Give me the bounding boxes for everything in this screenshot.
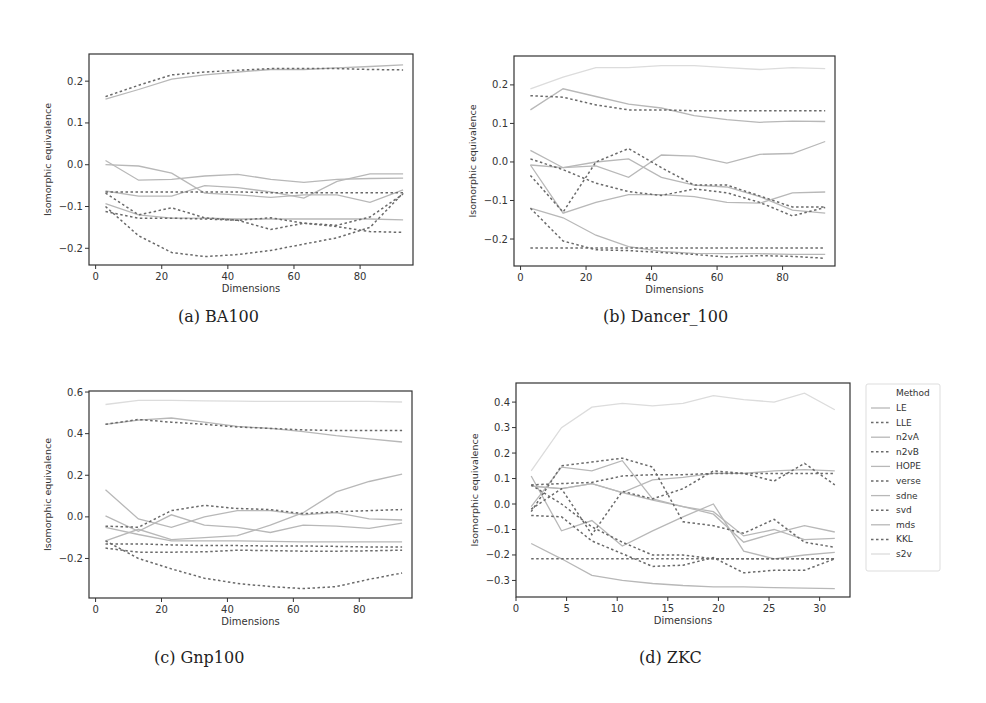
x-tick-label: 5 [563, 603, 569, 614]
line-d2 [530, 149, 825, 213]
y-tick-label: −0.2 [484, 234, 508, 245]
x-tick-label: 0 [92, 271, 98, 282]
x-tick-label: 25 [763, 603, 776, 614]
line-d4 [531, 516, 835, 573]
chart-canvas: 020406080−0.2−0.10.00.10.2DimensionsIsom… [0, 0, 986, 703]
x-tick-label: 80 [776, 272, 789, 283]
x-tick-label: 80 [353, 604, 366, 615]
legend-label-LLE: LLE [896, 418, 912, 428]
y-tick-label: 0.4 [494, 397, 510, 408]
legend-label-LE: LE [896, 403, 907, 413]
line-d3 [106, 212, 404, 233]
line-d3 [530, 208, 825, 258]
legend: MethodLELLEn2vAn2vBHOPEversesdnesvdmdsKK… [866, 384, 940, 571]
y-axis-label: Isomorphic equivalence [469, 433, 480, 546]
legend-label-s2v: s2v [896, 549, 912, 559]
x-axis-label: Dimensions [654, 615, 712, 626]
subplot-a: 020406080−0.2−0.10.00.10.2DimensionsIsom… [42, 54, 413, 294]
y-axis-label: Isomorphic equivalence [467, 104, 478, 217]
legend-label-svd: svd [896, 505, 912, 515]
line-d2 [531, 473, 835, 485]
y-tick-label: −0.2 [59, 553, 83, 564]
y-tick-label: −0.1 [486, 524, 510, 535]
line-s3 [106, 174, 404, 198]
x-tick-label: 20 [580, 272, 593, 283]
x-tick-label: 80 [354, 271, 367, 282]
y-tick-label: 0.3 [494, 422, 510, 433]
x-tick-label: 30 [813, 603, 826, 614]
y-tick-label: 0.1 [494, 473, 510, 484]
x-tick-label: 0 [517, 272, 523, 283]
subplot-d: 051015202530−0.3−0.2−0.10.00.10.20.30.4D… [469, 383, 850, 626]
y-tick-label: 0.6 [67, 387, 83, 398]
caption-a: (a) BA100 [178, 307, 259, 326]
x-tick-label: 40 [221, 271, 234, 282]
series-lines [106, 400, 403, 588]
line-s2 [530, 142, 825, 178]
line-s3 [106, 474, 403, 541]
y-tick-label: −0.1 [484, 195, 508, 206]
line-d3 [531, 463, 835, 534]
caption-d: (d) ZKC [639, 648, 702, 667]
y-tick-label: 0.2 [492, 79, 508, 90]
line-d-top [530, 96, 825, 111]
x-tick-label: 40 [645, 272, 658, 283]
axes-frame [89, 54, 413, 265]
x-tick-label: 10 [611, 603, 624, 614]
line-d4 [106, 193, 404, 257]
y-axis-label: Isomorphic equivalence [42, 103, 53, 216]
x-tick-label: 20 [155, 271, 168, 282]
line-d1 [106, 192, 404, 193]
x-tick-label: 60 [287, 604, 300, 615]
y-tick-label: 0.1 [67, 117, 83, 128]
subplot-c: 020406080−0.20.00.20.40.6DimensionsIsomo… [42, 387, 412, 627]
x-axis-label: Dimensions [222, 283, 280, 294]
line-s5 [531, 544, 835, 589]
line-d-top [106, 420, 403, 431]
y-tick-label: 0.0 [67, 159, 83, 170]
x-tick-label: 60 [711, 272, 724, 283]
x-tick-label: 15 [661, 603, 674, 614]
y-tick-label: −0.3 [486, 575, 510, 586]
y-tick-label: 0.1 [492, 118, 508, 129]
x-tick-label: 0 [513, 603, 519, 614]
caption-c: (c) Gnp100 [154, 648, 244, 667]
legend-label-KKL: KKL [896, 534, 913, 544]
x-tick-label: 60 [288, 271, 301, 282]
figure: 020406080−0.2−0.10.00.10.2DimensionsIsom… [0, 0, 986, 703]
series-lines [530, 66, 825, 259]
x-tick-label: 0 [92, 604, 98, 615]
line-d2 [106, 193, 404, 229]
y-tick-label: −0.2 [59, 243, 83, 254]
legend-label-sdne: sdne [896, 491, 918, 501]
line-d4 [106, 541, 403, 589]
legend-label-n2vA: n2vA [896, 432, 920, 442]
line-s2 [531, 476, 835, 559]
line-d3 [106, 548, 403, 552]
line-s2v [531, 393, 835, 471]
y-tick-label: 0.0 [494, 499, 510, 510]
caption-b: (b) Dancer_100 [603, 307, 728, 326]
y-tick-label: 0.2 [67, 76, 83, 87]
y-tick-label: −0.2 [486, 549, 510, 560]
line-s-top [106, 418, 403, 442]
bleed-through-text [560, 130, 567, 155]
x-axis-label: Dimensions [645, 284, 703, 295]
y-tick-label: 0.0 [492, 156, 508, 167]
y-tick-label: 0.4 [67, 428, 83, 439]
y-tick-label: −0.1 [59, 201, 83, 212]
series-lines [106, 65, 404, 257]
x-tick-label: 40 [221, 604, 234, 615]
y-axis-label: Isomorphic equivalence [42, 438, 53, 551]
line-s2 [106, 161, 404, 183]
legend-title: Method [896, 388, 930, 398]
line-d-top [106, 69, 404, 97]
line-d2 [106, 544, 403, 547]
line-faint-top [530, 66, 825, 89]
subplot-b: 020406080−0.2−0.10.00.10.2DimensionsIsom… [467, 56, 835, 295]
line-s-top [530, 89, 825, 123]
legend-label-mds: mds [896, 520, 915, 530]
line-faint-top [106, 400, 403, 404]
x-tick-label: 20 [712, 603, 725, 614]
x-tick-label: 20 [155, 604, 168, 615]
